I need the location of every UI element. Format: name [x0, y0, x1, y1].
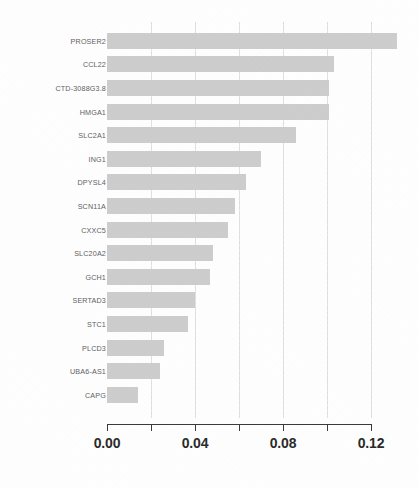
bar-row: PLCD3 — [0, 336, 418, 360]
bar-row: DPYSL4 — [0, 171, 418, 195]
bar-row: STC1 — [0, 312, 418, 336]
bar — [107, 56, 334, 72]
bar-row: SLC20A2 — [0, 241, 418, 265]
bar-category-label: SERTAD3 — [0, 296, 106, 305]
bar — [107, 33, 397, 49]
bar-row: ING1 — [0, 147, 418, 171]
bar-category-label: GCH1 — [0, 272, 106, 281]
x-axis-tick — [371, 424, 372, 431]
bar — [107, 174, 246, 190]
x-axis-tick — [283, 424, 284, 431]
bar — [107, 363, 160, 379]
bar — [107, 340, 164, 356]
bar-category-label: CTD-3088G3.8 — [0, 83, 106, 92]
bar-category-label: PLCD3 — [0, 343, 106, 352]
bar-row: CXXC5 — [0, 218, 418, 242]
x-axis-tick-label: 0.00 — [94, 435, 120, 451]
bar-row: GCH1 — [0, 265, 418, 289]
bar — [107, 316, 188, 332]
bar — [107, 104, 329, 120]
bar — [107, 198, 235, 214]
bar-category-label: SCN11A — [0, 201, 106, 210]
bar-row: CAPG — [0, 383, 418, 407]
bar-category-label: UBA6-AS1 — [0, 367, 106, 376]
bar — [107, 292, 195, 308]
x-axis-tick — [239, 424, 240, 431]
bar-row: HMGA1 — [0, 100, 418, 124]
x-axis-tick-label: 0.04 — [182, 435, 208, 451]
bar-category-label: SLC2A1 — [0, 131, 106, 140]
bar — [107, 387, 138, 403]
bar — [107, 127, 296, 143]
x-axis-tick — [195, 424, 196, 431]
bar-row: PROSER2 — [0, 29, 418, 53]
x-axis-tick-label: 0.08 — [270, 435, 296, 451]
bar-row: SLC2A1 — [0, 123, 418, 147]
plot-area: PROSER2CCL22CTD-3088G3.8HMGA1SLC2A1ING1D… — [0, 0, 418, 420]
x-axis-tick — [107, 424, 108, 431]
bar-row: SERTAD3 — [0, 289, 418, 313]
bar-category-label: CCL22 — [0, 60, 106, 69]
bar-category-label: CXXC5 — [0, 225, 106, 234]
x-axis-tick — [151, 424, 152, 431]
bar-category-label: HMGA1 — [0, 107, 106, 116]
bar-category-label: STC1 — [0, 319, 106, 328]
bar-chart: PROSER2CCL22CTD-3088G3.8HMGA1SLC2A1ING1D… — [0, 0, 418, 488]
bar — [107, 151, 261, 167]
x-axis-tick-label: 0.12 — [358, 435, 384, 451]
bar-row: CCL22 — [0, 53, 418, 77]
bar — [107, 80, 329, 96]
bar-category-label: CAPG — [0, 390, 106, 399]
bar-row: UBA6-AS1 — [0, 359, 418, 383]
x-axis-tick — [327, 424, 328, 431]
bar-category-label: PROSER2 — [0, 36, 106, 45]
bar-row: SCN11A — [0, 194, 418, 218]
bar-category-label: SLC20A2 — [0, 249, 106, 258]
bar — [107, 269, 210, 285]
bar-category-label: ING1 — [0, 154, 106, 163]
bar-row: CTD-3088G3.8 — [0, 76, 418, 100]
bar — [107, 245, 213, 261]
bar-category-label: DPYSL4 — [0, 178, 106, 187]
bar — [107, 222, 228, 238]
